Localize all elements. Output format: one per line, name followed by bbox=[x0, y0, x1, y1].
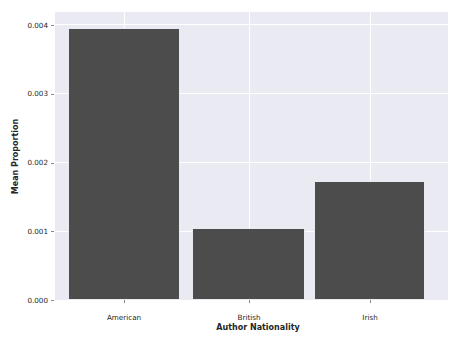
y-axis-title: Mean Proportion bbox=[8, 0, 24, 312]
x-tick-mark-american bbox=[124, 300, 125, 303]
bar-american[interactable] bbox=[68, 28, 180, 300]
x-axis-title: Author Nationality bbox=[0, 323, 464, 332]
y-tick-mark-2 bbox=[51, 163, 54, 164]
y-axis-title-text: Mean Proportion bbox=[12, 118, 21, 194]
y-tick-mark-0 bbox=[51, 300, 54, 301]
plot-area bbox=[55, 12, 448, 300]
bar-chart-figure: Mean Proportion 0.000 0.001 0.002 0.003 … bbox=[0, 0, 464, 345]
x-tick-label-irish: Irish bbox=[362, 314, 377, 321]
x-tick-mark-british bbox=[249, 300, 250, 303]
x-tick-label-american: American bbox=[107, 314, 141, 321]
y-tick-label-3: 0.003 bbox=[12, 90, 48, 97]
x-tick-label-british: British bbox=[238, 314, 261, 321]
y-tick-label-0: 0.000 bbox=[12, 297, 48, 304]
bar-british[interactable] bbox=[192, 228, 305, 300]
y-tick-label-1: 0.001 bbox=[12, 228, 48, 235]
gridline-y-0.004 bbox=[55, 24, 448, 25]
y-tick-mark-3 bbox=[51, 94, 54, 95]
y-tick-label-2: 0.002 bbox=[12, 159, 48, 166]
bar-irish[interactable] bbox=[314, 181, 425, 300]
x-tick-mark-irish bbox=[370, 300, 371, 303]
y-tick-label-4: 0.004 bbox=[12, 22, 48, 29]
y-tick-mark-4 bbox=[51, 25, 54, 26]
y-tick-mark-1 bbox=[51, 231, 54, 232]
x-axis-title-text: Author Nationality bbox=[216, 323, 299, 332]
